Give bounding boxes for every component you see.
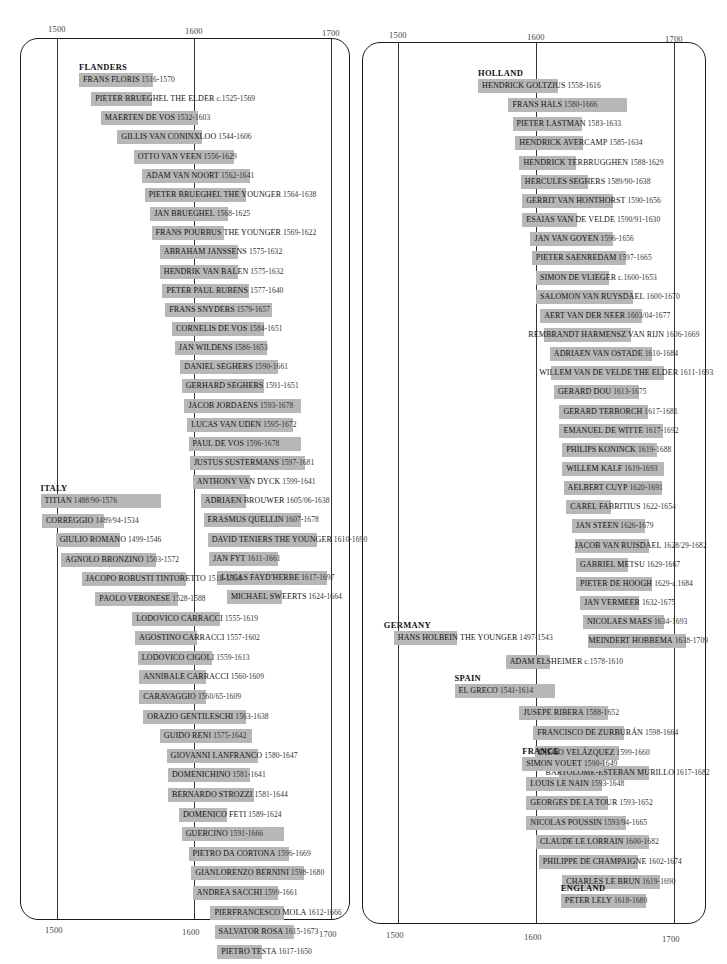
artist-label: DANIEL SEGHERS 1590-1661 [184, 362, 288, 371]
artist-label: DOMENICO FETI 1589-1624 [183, 810, 282, 819]
artist-label: ANTHONY VAN DYCK 1599-1641 [197, 477, 316, 486]
artist-label: HENDRIK VAN BALEN 1575-1632 [164, 267, 284, 276]
artist-name: GUIDO RENI [164, 731, 211, 740]
artist-label: GERHARD SEGHERS 1591-1651 [186, 381, 299, 390]
artist-name: JACOPO ROBUSTI TINTORETTO [86, 574, 206, 583]
artist-dates: 1590-1656 [626, 196, 661, 205]
artist-label: TITIAN 1488/90-1576 [45, 496, 118, 505]
artist-dates: 1597-1665 [616, 253, 651, 262]
artist-name: GUERCINO [186, 829, 228, 838]
artist-label: PIETER DE HOOGH 1629-c.1684 [580, 579, 693, 588]
artist-dates: 1563-1638 [233, 712, 268, 721]
artist-label: PHILIPPE DE CHAMPAIGNE 1602-1674 [543, 857, 682, 866]
tick-label-top-1600: 1600 [185, 26, 203, 36]
artist-name: PIETRO TESTA [221, 947, 276, 956]
artist-dates: 1597-1681 [279, 458, 314, 467]
artist-name: PIETER BRUEGHEL THE ELDER [95, 94, 214, 103]
artist-name: AELBERT CUYP [568, 483, 628, 492]
artist-label: MICHAEL SWEERTS 1624-1664 [231, 592, 342, 601]
artist-dates: 1586-1653 [232, 343, 267, 352]
artist-label: CORNELIS DE VOS 1584-1651 [176, 324, 283, 333]
artist-label: SALOMON VAN RUYSDAEL 1600-1670 [540, 292, 680, 301]
tick-label-bottom-1500: 1500 [386, 930, 404, 940]
artist-name: FRANS HALS [512, 100, 562, 109]
artist-label: FRANS FLORIS 1516-1570 [83, 75, 175, 84]
artist-dates: 1629-c.1684 [652, 579, 693, 588]
artist-dates: 1557-1602 [225, 633, 260, 642]
artist-label: ANNIBALE CARRACCI 1560-1609 [143, 672, 264, 681]
artist-label: SALVATOR ROSA 1615-1673 [219, 927, 319, 936]
artist-name: GERARD TERBORCH [563, 407, 642, 416]
artist-dates: 1593/94-1665 [602, 818, 647, 827]
artist-name: LODOVICO CIGOLI [142, 653, 214, 662]
artist-name: AGOSTINO CARRACCI [139, 633, 225, 642]
artist-label: HENDRICK TERBRUGGHEN 1588-1629 [523, 158, 663, 167]
artist-dates: 1568-1625 [215, 209, 250, 218]
artist-label: GUERCINO 1591-1666 [186, 829, 264, 838]
artist-dates: 1600-1670 [644, 292, 679, 301]
artist-name: GILLIS VAN CONINXLOO [121, 132, 216, 141]
artist-name: EMANUEL DE WITTE [563, 426, 643, 435]
artist-label: HENDRICK GOLTZIUS 1558-1616 [482, 81, 601, 90]
artist-dates: 1579-1657 [235, 305, 270, 314]
artist-label: AELBERT CUYP 1620-1691 [568, 483, 663, 492]
artist-label: DOMENICHINO 1581-1641 [172, 770, 266, 779]
artist-name: PIERFRANCESCO MOLA [214, 908, 306, 917]
artist-dates: 1575-1632 [247, 247, 282, 256]
artist-label: PETER LELY 1618-1680 [565, 896, 647, 905]
artist-dates: 1580-1666 [562, 100, 597, 109]
artist-label: DAVID TENIERS THE YOUNGER 1610-1690 [212, 535, 368, 544]
tick-label-top-1600: 1600 [527, 32, 545, 42]
artist-label: HENDRICK AVERCAMP 1585-1634 [519, 138, 642, 147]
artist-dates: 1624-1664 [306, 592, 341, 601]
artist-dates: 1607-1678 [284, 515, 319, 524]
artist-dates: 1589/90-1638 [605, 177, 650, 186]
tick-label-bottom-1700: 1700 [662, 934, 680, 944]
artist-dates: 1638-1709 [673, 636, 708, 645]
artist-name: OTTO VAN VEEN [138, 152, 202, 161]
artist-name: DANIEL SEGHERS [184, 362, 252, 371]
artist-name: MAERTEN DE VOS [105, 113, 175, 122]
artist-dates: 1595-1672 [261, 420, 296, 429]
section-heading-england: ENGLAND [561, 883, 606, 893]
artist-label: ERASMUS QUELLIN 1607-1678 [208, 515, 319, 524]
artist-name: SIMON VOUET [526, 759, 582, 768]
artist-dates: 1598-1680 [289, 868, 324, 877]
artist-name: DAVID TENIERS THE YOUNGER [212, 535, 332, 544]
artist-name: JAN FYT [213, 554, 245, 563]
tick-label-bottom-1700: 1700 [319, 929, 337, 939]
artist-dates: 1581-1644 [252, 790, 287, 799]
artist-dates: 1560/65-1609 [196, 692, 241, 701]
artist-dates: 1580-1647 [262, 751, 297, 760]
artist-label: PIERFRANCESCO MOLA 1612-1666 [214, 908, 341, 917]
artist-dates: 1600-1682 [623, 837, 658, 846]
artist-label: PIETER BRUEGHEL THE YOUNGER 1564-1638 [149, 190, 317, 199]
artist-dates: c.1578-1610 [582, 657, 623, 666]
artist-name: ADAM VAN NOORT [146, 171, 219, 180]
artist-name: ADRIAEN BROUWER [205, 496, 285, 505]
artist-label: ADRIAEN BROUWER 1605/06-1638 [205, 496, 330, 505]
artist-label: ABRAHAM JANSSENS 1575-1632 [164, 247, 283, 256]
artist-label: GIULIO ROMANO 1499-1546 [60, 535, 162, 544]
artist-dates: 1612-1666 [306, 908, 341, 917]
artist-dates: 1556-1629 [202, 152, 237, 161]
artist-label: JUSTUS SUSTERMANS 1597-1681 [194, 458, 314, 467]
section-heading-germany: GERMANY [384, 620, 431, 630]
artist-name: ADRIAEN VAN OSTADE [554, 349, 643, 358]
artist-dates: 1518-1594 [206, 574, 241, 583]
artist-dates: 1593-1648 [589, 779, 624, 788]
artist-dates: 1619-1688 [636, 445, 671, 454]
artist-label: LUCAS VAN UDEN 1595-1672 [191, 420, 296, 429]
artist-label: ADAM VAN NOORT 1562-1641 [146, 171, 254, 180]
artist-label: GUIDO RENI 1575-1642 [164, 731, 247, 740]
artist-name: HENDRICK GOLTZIUS [482, 81, 565, 90]
artist-dates: 1583-1633 [586, 119, 621, 128]
artist-dates: 1602-1674 [646, 857, 681, 866]
artist-name: HERCULES SEGHERS [525, 177, 606, 186]
artist-name: ADAM ELSHEIMER [510, 657, 583, 666]
artist-dates: 1575-1642 [211, 731, 246, 740]
artist-dates: 1564-1638 [281, 190, 316, 199]
artist-dates: 1598-1664 [643, 728, 678, 737]
artist-dates: 1599-1661 [262, 888, 297, 897]
artist-dates: 1611-1661 [246, 554, 281, 563]
